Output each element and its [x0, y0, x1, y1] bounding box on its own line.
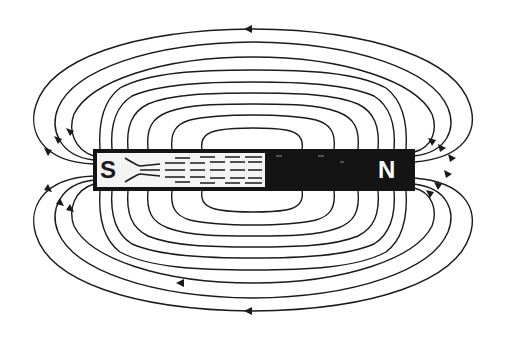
bar-magnet [94, 150, 414, 190]
arrow-bottom-outer [244, 307, 252, 315]
arrow-right-bot-3 [426, 190, 434, 198]
arrow-right-top-1 [448, 154, 456, 162]
field-lines-svg [0, 0, 506, 340]
arrow-top-outer [244, 25, 252, 33]
north-pole-label: N [378, 158, 395, 182]
south-pole-label: S [100, 158, 116, 182]
arrow-right-bot-1 [444, 170, 452, 178]
bottom-field-lines [34, 176, 473, 311]
arrow-bottom-3 [176, 279, 184, 287]
top-field-lines [34, 29, 473, 164]
arrow-right-top-2 [438, 144, 446, 152]
